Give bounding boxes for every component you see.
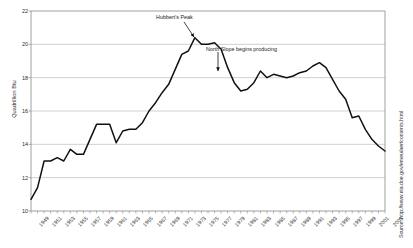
data-series-line bbox=[31, 38, 385, 200]
energy-production-chart: Quadrillion Btu 10121416182022 194919511… bbox=[0, 0, 413, 248]
annotation-label-north-slope: North Slope begins producing bbox=[206, 46, 277, 52]
annotation-label-hubberts-peak: Hubbert's Peak bbox=[156, 14, 193, 20]
annotation-arrow-hubberts-peak bbox=[184, 22, 194, 37]
source-note: Source: http://www.eia.doe.gov/emeu/aer/… bbox=[398, 111, 404, 238]
plot-canvas bbox=[0, 0, 413, 248]
